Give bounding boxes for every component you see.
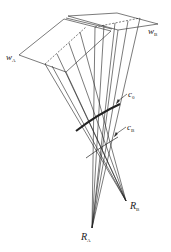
plane-wa — [19, 19, 111, 72]
plane-wa-edge-double — [66, 18, 112, 29]
rays-to-rb — [45, 32, 126, 201]
label-wa: wA — [6, 52, 16, 63]
rays-to-ra — [92, 18, 140, 228]
label-c0: c0 — [128, 89, 135, 100]
label-cb: cB — [127, 122, 135, 133]
label-rb: RB — [129, 200, 140, 212]
diagram-canvas: wA wB c0 cB RA RB — [0, 0, 171, 252]
label-wb: wB — [148, 26, 158, 37]
label-ra: RA — [80, 231, 91, 243]
leader-cb — [116, 127, 126, 134]
